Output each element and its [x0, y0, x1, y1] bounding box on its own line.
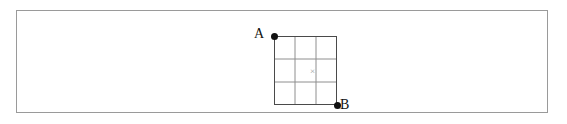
grid-lines-svg — [274, 36, 337, 105]
grid-outer-boundary — [275, 37, 337, 105]
point-a-marker — [271, 33, 278, 40]
point-b-label: B — [340, 98, 349, 112]
x-mark-icon: × — [308, 67, 317, 76]
figure-canvas: × A B — [0, 0, 567, 124]
lattice-grid — [274, 36, 337, 105]
figure-border: × A B — [16, 10, 548, 113]
point-a-label: A — [254, 27, 264, 41]
